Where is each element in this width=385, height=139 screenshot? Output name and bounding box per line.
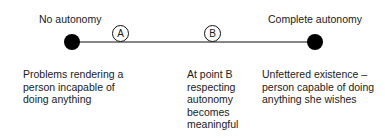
point-b-marker: B [204,25,221,42]
left-description: Problems rendering a person incapable of… [23,68,123,106]
left-description-line: doing anything [23,93,123,106]
point-a-marker: A [112,25,129,42]
right-description-line: Unfettered existence – [262,68,374,81]
middle-description-line: respecting [187,81,238,94]
no-autonomy-label: No autonomy [39,13,101,26]
right-endpoint-dot [307,34,323,50]
middle-description-line: becomes [187,106,238,119]
middle-description-line: At point B [187,68,238,81]
right-description-line: person capable of doing [262,81,374,94]
left-endpoint-dot [64,34,80,50]
right-description: Unfettered existence – person capable of… [262,68,374,106]
middle-description: At point B respecting autonomy becomes m… [187,68,238,131]
middle-description-line: meaningful [187,118,238,131]
middle-description-line: autonomy [187,93,238,106]
complete-autonomy-label: Complete autonomy [268,13,362,26]
left-description-line: Problems rendering a [23,68,123,81]
right-description-line: anything she wishes [262,93,374,106]
left-description-line: person incapable of [23,81,123,94]
